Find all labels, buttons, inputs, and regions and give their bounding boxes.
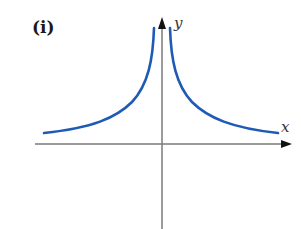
panel-label: (i) — [32, 17, 55, 37]
y-axis-label: y — [174, 14, 182, 32]
graph-figure: (i) y x — [0, 0, 301, 229]
curve-right-branch — [170, 28, 278, 133]
y-axis-arrow-icon — [158, 17, 166, 29]
x-axis-label: x — [281, 118, 289, 136]
curve-left-branch — [44, 28, 154, 133]
x-axis-arrow-icon — [281, 140, 292, 148]
